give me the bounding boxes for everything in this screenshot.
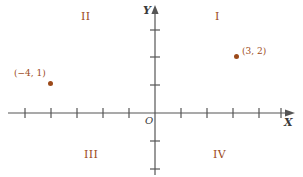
coordinate-plane-figure: X Y O I II III IV (3, 2) (−4, 1) [0, 0, 303, 177]
data-point-3-2 [234, 54, 239, 59]
quadrant-label-iii: III [84, 149, 98, 160]
x-axis-label: X [284, 117, 293, 128]
data-point-label-minus4-1: (−4, 1) [14, 69, 46, 78]
quadrant-label-iv: IV [213, 149, 226, 160]
axes-graphic [0, 0, 303, 177]
data-point-minus4-1 [48, 81, 53, 86]
quadrant-label-ii: II [81, 11, 91, 22]
y-axis-label: Y [143, 5, 151, 16]
data-point-label-3-2: (3, 2) [242, 47, 266, 56]
origin-label: O [145, 116, 153, 126]
quadrant-label-i: I [215, 11, 220, 22]
y-axis-arrow [151, 5, 158, 14]
